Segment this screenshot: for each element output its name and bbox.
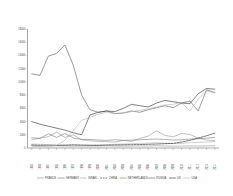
x-axis-tick-label: 2004 [130, 163, 134, 169]
data-series-group [32, 45, 215, 147]
legend-label-uk: UK [177, 176, 181, 180]
series-line-germany [32, 133, 215, 140]
x-axis-tick-label: 2008 [163, 163, 167, 169]
legend-item-uk[interactable]: UK [169, 176, 181, 180]
legend-label-germany: GERMANY [66, 176, 80, 180]
x-axis-tick-label: 2012 [196, 163, 200, 169]
y-axis-tick-label: 16000 [18, 40, 26, 44]
legend-label-france: FRANCE [45, 176, 56, 180]
x-axis-group: 1992199319941995199619971998199920002001… [28, 148, 220, 170]
y-axis-tick-label: 0 [24, 146, 26, 150]
x-axis-tick-label: 2011 [188, 163, 192, 169]
y-axis-tick-labels: 1800016000140001200010000800060004000200… [18, 27, 26, 150]
x-axis-tick-label: 1994 [46, 163, 50, 169]
legend-item-netherlands[interactable]: NETHERLANDS [120, 176, 148, 180]
y-axis-tick-label: 18000 [18, 27, 26, 31]
x-axis-tick-label: 2010 [180, 163, 184, 169]
y-axis-tick-label: 8000 [20, 93, 26, 97]
legend-item-germany[interactable]: GERMANY [58, 176, 80, 180]
legend-item-usa[interactable]: USA [183, 176, 197, 180]
x-axis-tick-label: 1995 [55, 163, 59, 169]
x-axis-tick-label: 1999 [88, 163, 92, 169]
y-axis-tick-label: 12000 [18, 67, 26, 71]
y-axis-tick-label: 10000 [18, 80, 26, 84]
x-axis-tick-label: 2000 [96, 163, 100, 169]
x-axis-tick-label: 1996 [63, 163, 67, 169]
x-axis-tick-label: 2014 [213, 163, 217, 169]
legend-item-russia[interactable]: RUSSIA [148, 176, 166, 180]
legend-label-usa: USA [192, 176, 198, 180]
legend-item-france[interactable]: FRANCE [37, 176, 56, 180]
legend-item-china[interactable]: CHINA [101, 176, 118, 180]
x-axis-tick-label: 2013 [205, 163, 209, 169]
x-axis-tick-label: 1998 [80, 163, 84, 169]
chart-legend: FRANCEGERMANYISRAELCHINANETHERLANDSRUSSI… [37, 176, 197, 180]
y-axis-tick-label: 4000 [20, 120, 26, 124]
x-axis-tick-label: 1993 [38, 163, 42, 169]
x-axis-tick-labels: 1992199319941995199619971998199920002001… [30, 163, 217, 169]
x-axis-tick-label: 1992 [30, 163, 34, 169]
y-axis-tick-label: 6000 [20, 106, 26, 110]
legend-label-china: CHINA [109, 176, 118, 180]
series-line-uk [32, 89, 215, 135]
x-axis-tick-label: 1997 [71, 163, 75, 169]
series-line-usa [32, 91, 215, 147]
x-axis-tick-label: 2009 [171, 163, 175, 169]
legend-label-russia: RUSSIA [156, 176, 166, 180]
y-axis-tick-label: 2000 [20, 133, 26, 137]
x-axis-tick-label: 2003 [121, 163, 125, 169]
chart-canvas: 1800016000140001200010000800060004000200… [0, 0, 233, 196]
x-axis-tick-label: 2005 [138, 163, 142, 169]
legend-item-israel[interactable]: ISRAEL [80, 176, 98, 180]
line-chart: 1800016000140001200010000800060004000200… [0, 0, 233, 196]
x-axis-tick-label: 2001 [105, 163, 109, 169]
y-axis-group: 1800016000140001200010000800060004000200… [18, 27, 27, 150]
legend-label-netherlands: NETHERLANDS [128, 176, 148, 180]
legend-label-israel: ISRAEL [88, 176, 98, 180]
x-axis-tick-label: 2007 [155, 163, 159, 169]
x-axis-tick-label: 2006 [146, 163, 150, 169]
y-axis-tick-label: 14000 [18, 53, 26, 57]
x-axis-tick-label: 2002 [113, 163, 117, 169]
